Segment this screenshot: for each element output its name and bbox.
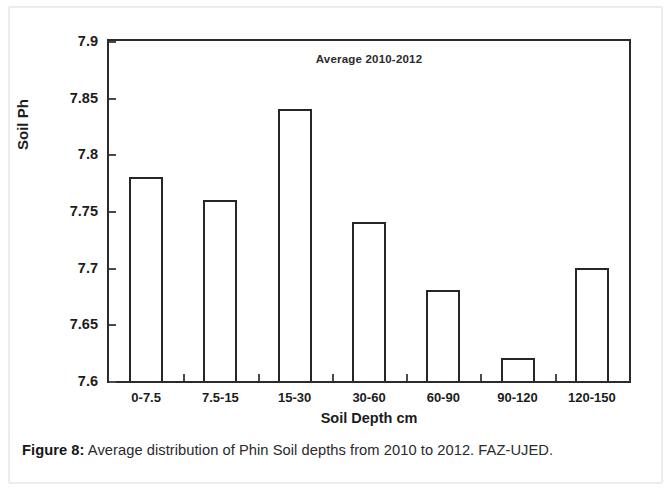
figure-caption: Figure 8: Average distribution of Phin S…: [22, 441, 650, 460]
y-axis-tick-label: 7.75: [38, 203, 98, 219]
y-axis-tick-label: 7.85: [38, 90, 98, 106]
y-axis-tick-label: 7.8: [38, 146, 98, 162]
bar: [352, 222, 386, 381]
figure-caption-label: Figure 8:: [22, 442, 84, 458]
y-axis-tick-label: 7.6: [38, 373, 98, 389]
bar-chart: Soil Ph Average 2010-2012 7.67.657.77.75…: [0, 0, 671, 432]
x-axis-category-label: 60-90: [427, 390, 460, 405]
bar: [203, 200, 237, 381]
x-axis-category-label: 0-7.5: [131, 390, 161, 405]
y-axis-tick-label: 7.7: [38, 260, 98, 276]
y-axis-tick: [109, 41, 116, 43]
bar: [426, 290, 460, 381]
y-axis-tick-label: 7.65: [38, 316, 98, 332]
y-axis-tick: [109, 268, 116, 270]
x-axis-tick: [555, 374, 557, 381]
x-axis-tick: [258, 374, 260, 381]
x-axis-title: Soil Depth cm: [107, 410, 631, 426]
y-axis-title: Soil Ph: [14, 99, 31, 150]
y-axis-tick: [109, 381, 116, 383]
bar: [575, 268, 609, 381]
x-axis-tick: [480, 374, 482, 381]
y-axis-tick: [109, 154, 116, 156]
x-axis-category-label: 15-30: [278, 390, 311, 405]
x-axis-category-label: 30-60: [352, 390, 385, 405]
y-axis-tick: [109, 324, 116, 326]
x-axis-tick: [183, 374, 185, 381]
y-axis-tick: [109, 98, 116, 100]
y-axis-tick-label: 7.9: [38, 33, 98, 49]
bar: [129, 177, 163, 381]
chart-title: Average 2010-2012: [109, 53, 629, 65]
bar: [501, 358, 535, 381]
x-axis-category-label: 90-120: [497, 390, 537, 405]
x-axis-tick: [332, 374, 334, 381]
x-axis-category-label: 120-150: [568, 390, 616, 405]
figure-caption-text: Average distribution of Phin Soil depths…: [84, 442, 553, 458]
bar: [278, 109, 312, 381]
x-axis-category-label: 7.5-15: [202, 390, 239, 405]
x-axis-tick: [406, 374, 408, 381]
y-axis-tick: [109, 211, 116, 213]
figure-container: Soil Ph Average 2010-2012 7.67.657.77.75…: [0, 0, 671, 491]
plot-area: Average 2010-2012: [107, 39, 631, 383]
